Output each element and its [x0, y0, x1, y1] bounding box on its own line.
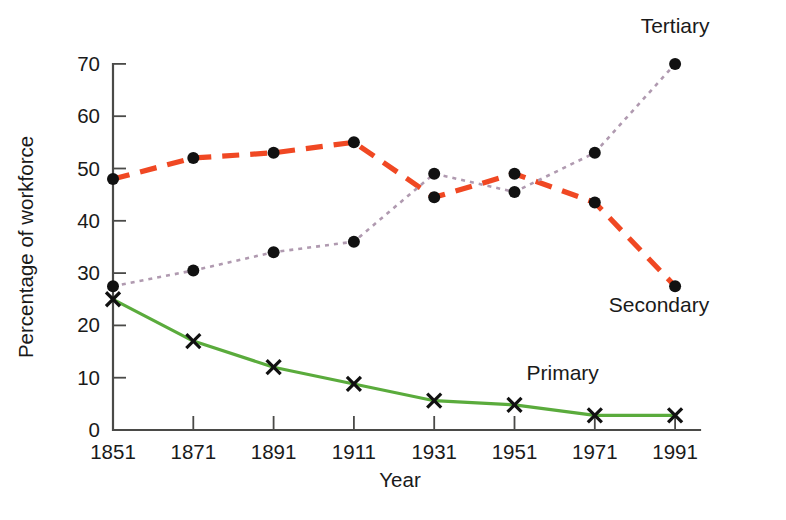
y-tick-label: 50 — [77, 157, 100, 180]
y-tick-label: 10 — [77, 366, 100, 389]
data-point-secondary — [589, 197, 601, 209]
data-point-secondary — [107, 173, 119, 185]
data-point-secondary — [348, 136, 360, 148]
data-point-tertiary — [348, 236, 360, 248]
x-tick-label: 1891 — [251, 440, 297, 463]
series-label-primary: Primary — [527, 361, 600, 384]
series-line-primary — [113, 299, 675, 415]
x-tick-label: 1911 — [332, 440, 376, 463]
x-tick-label: 1991 — [652, 440, 698, 463]
x-tick-label: 1851 — [90, 440, 136, 463]
x-tick-label: 1951 — [492, 440, 538, 463]
y-tick-label: 60 — [77, 104, 100, 127]
y-tick-label: 30 — [77, 261, 100, 284]
data-point-secondary — [187, 152, 199, 164]
y-axis-title: Percentage of workforce — [14, 136, 37, 358]
data-point-secondary — [268, 147, 280, 159]
data-point-tertiary — [509, 186, 521, 198]
x-tick-label: 1931 — [411, 440, 457, 463]
x-axis-ticks: 18511871189119111931195119711991 — [90, 416, 698, 463]
data-point-tertiary — [589, 147, 601, 159]
workforce-line-chart: 010203040506070 185118711891191119311951… — [0, 0, 786, 520]
y-tick-label: 20 — [77, 313, 100, 336]
series-label-secondary: Secondary — [609, 293, 710, 316]
x-tick-label: 1971 — [572, 440, 618, 463]
x-tick-label: 1871 — [170, 440, 216, 463]
data-point-secondary — [509, 168, 521, 180]
x-axis-title: Year — [379, 468, 421, 491]
data-point-tertiary — [268, 246, 280, 258]
axis-lines — [113, 64, 700, 430]
chart-container: 010203040506070 185118711891191119311951… — [0, 0, 786, 520]
data-point-secondary — [428, 191, 440, 203]
data-point-tertiary — [428, 168, 440, 180]
series-label-tertiary: Tertiary — [641, 14, 710, 37]
y-tick-label: 40 — [77, 209, 100, 232]
y-tick-label: 0 — [89, 418, 100, 441]
series-line-secondary — [113, 142, 675, 286]
series-labels: SecondaryTertiaryPrimary — [527, 14, 710, 385]
data-point-tertiary — [669, 58, 681, 70]
data-point-tertiary — [107, 280, 119, 292]
y-axis-ticks: 010203040506070 — [77, 52, 126, 441]
y-tick-label: 70 — [77, 52, 100, 75]
data-point-tertiary — [187, 265, 199, 277]
series-line-tertiary — [113, 64, 675, 286]
data-point-secondary — [669, 280, 681, 292]
